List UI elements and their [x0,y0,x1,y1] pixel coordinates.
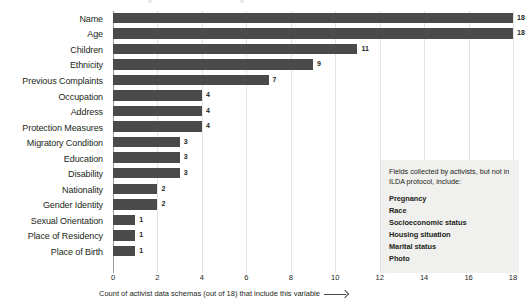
x-axis-caption: Count of activist data schemas (out of 1… [99,289,350,298]
y-axis-label: Place of Birth [0,244,108,260]
annotation-field: Socioeconomic status [389,217,511,229]
bar-row: 18 [113,27,513,43]
x-axis-tick: 14 [420,273,428,282]
bar[interactable] [113,152,180,163]
bar-value-label: 4 [206,119,210,132]
bar-row: 3 [113,135,513,151]
bar-row: 4 [113,104,513,120]
y-axis-label: Name [0,11,108,27]
bar[interactable] [113,137,180,148]
x-axis-tick: 18 [509,273,517,282]
annotation-field: Marital status [389,241,511,253]
bar-value-label: 18 [517,26,525,39]
bar[interactable] [113,168,180,179]
annotation-field: Housing situation [389,229,511,241]
x-axis-tick: 16 [464,273,472,282]
bar-value-label: 2 [161,197,165,210]
bar-value-label: 9 [317,57,321,70]
y-axis-label: Previous Complaints [0,73,108,89]
bar-value-label: 2 [161,182,165,195]
annotation-field: Photo [389,253,511,265]
bar-value-label: 3 [184,150,188,163]
bar[interactable] [113,184,157,195]
y-axis-category-labels: NameAgeChildrenEthnicityPrevious Complai… [0,11,108,273]
bar-value-label: 4 [206,88,210,101]
bar[interactable] [113,90,202,101]
y-axis-label: Education [0,151,108,167]
bar[interactable] [113,106,202,117]
bar[interactable] [113,28,513,39]
arrow-right-icon [324,291,350,297]
y-axis-label: Children [0,42,108,58]
y-axis-label: Migratory Condition [0,135,108,151]
x-axis-tick: 8 [289,273,293,282]
bar-chart-figure: NameAgeChildrenEthnicityPrevious Complai… [0,0,530,304]
annotation-field-list: PregnancyRaceSocioeconomic statusHousing… [389,193,511,265]
x-axis-tick: 10 [331,273,339,282]
annotation-intro-text: Fields collected by activists, but not i… [389,167,511,188]
bar-value-label: 3 [184,135,188,148]
x-axis-tick: 6 [244,273,248,282]
x-axis-tick: 2 [155,273,159,282]
y-axis-label: Ethnicity [0,58,108,74]
bar-value-label: 7 [273,73,277,86]
bar-value-label: 1 [139,244,143,257]
x-axis-tick: 0 [111,273,115,282]
cropped-title-artifact [148,0,244,4]
bar-row: 4 [113,120,513,136]
bar-row: 11 [113,42,513,58]
bar-row: 7 [113,73,513,89]
bar[interactable] [113,246,135,257]
x-axis-caption-text: Count of activist data schemas (out of 1… [99,289,320,298]
bar-value-label: 4 [206,104,210,117]
y-axis-label: Protection Measures [0,120,108,136]
bar-row: 4 [113,89,513,105]
bar[interactable] [113,199,157,210]
bar-value-label: 11 [361,42,368,55]
y-axis-label: Nationality [0,182,108,198]
bar[interactable] [113,75,269,86]
y-axis-label: Age [0,27,108,43]
bar[interactable] [113,13,513,24]
y-axis-label: Occupation [0,89,108,105]
y-axis-label: Gender Identity [0,198,108,214]
bar-value-label: 18 [517,11,525,24]
bar[interactable] [113,230,135,241]
bar-value-label: 1 [139,213,143,226]
bar-row: 9 [113,58,513,74]
bar-row: 18 [113,11,513,27]
bar[interactable] [113,121,202,132]
y-axis-label: Address [0,104,108,120]
bar[interactable] [113,44,357,55]
annotation-box: Fields collected by activists, but not i… [381,160,519,273]
x-axis-tick: 12 [375,273,383,282]
x-axis-tick: 4 [200,273,204,282]
y-axis-label: Sexual Orientation [0,213,108,229]
annotation-field: Pregnancy [389,193,511,205]
bar[interactable] [113,215,135,226]
annotation-field: Race [389,205,511,217]
y-axis-label: Place of Residency [0,229,108,245]
bar-value-label: 1 [139,228,143,241]
bar-value-label: 3 [184,166,188,179]
x-axis-tick-labels: 024681012141618 [113,273,513,287]
y-axis-label: Disability [0,166,108,182]
bar[interactable] [113,59,313,70]
